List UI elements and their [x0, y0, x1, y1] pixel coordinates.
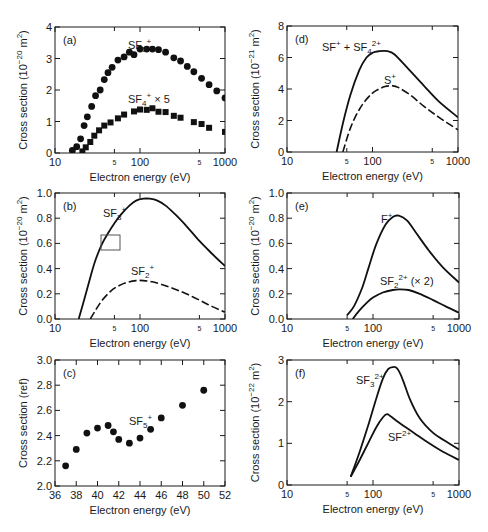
x-minor-tick-label: 5	[112, 325, 116, 332]
series-label-sf2: SF2+	[131, 263, 155, 280]
series-sf-2-	[351, 414, 459, 477]
data-point	[200, 387, 207, 394]
x-tick-label: 42	[113, 489, 125, 501]
x-tick-label: 1000	[446, 155, 470, 167]
series-sf4-5	[79, 105, 228, 154]
y-tick-label: 0.0	[269, 313, 284, 325]
y-tick-label: 1.0	[37, 187, 52, 199]
data-point	[170, 54, 177, 61]
data-point	[81, 122, 88, 129]
data-point	[162, 49, 169, 56]
x-minor-tick-label: 5	[197, 325, 201, 332]
y-axis-title: Cross section (10−20 m2)	[15, 30, 29, 150]
data-point	[184, 63, 191, 70]
x-minor-tick-label: 5	[345, 158, 349, 165]
x-tick-label: 1000	[447, 322, 471, 334]
data-point	[171, 113, 177, 119]
y-tick-label: 2.8	[37, 379, 52, 391]
data-line	[347, 215, 459, 315]
y-tick-label: 3.0	[37, 354, 52, 366]
panel-f: 10100100055Electron energy (eV)0123Cross…	[247, 354, 471, 515]
data-point	[199, 121, 205, 127]
data-point	[115, 115, 121, 121]
y-tick-label: 2.6	[37, 404, 52, 416]
panel-label: (c)	[63, 367, 76, 379]
y-axis-title: Cross section (10−22 m2)	[247, 363, 261, 483]
y-tick-label: 0	[278, 479, 284, 491]
plot-area	[337, 51, 458, 152]
y-tick-label: 2.4	[37, 430, 52, 442]
y-tick-label: 4	[278, 83, 284, 95]
y-tick-label: 3	[46, 53, 52, 65]
data-point	[94, 425, 101, 432]
y-tick-label: 6	[278, 52, 284, 64]
x-minor-tick-label: 5	[431, 491, 435, 498]
x-tick-label: 48	[176, 489, 188, 501]
data-point	[110, 428, 117, 435]
x-axis-title: Electron energy (eV)	[323, 337, 424, 349]
panel-b: 10100100055Electron energy (eV)0.00.20.4…	[15, 187, 237, 349]
data-point	[121, 112, 127, 118]
series-label-s: S+	[384, 72, 396, 86]
x-tick-label: 100	[364, 488, 382, 500]
data-point	[109, 64, 116, 71]
data-point	[115, 57, 122, 64]
y-axis-title: Cross section (10−21 m2)	[247, 29, 261, 149]
plot-area	[62, 387, 207, 469]
series-label-sf4: SF4+ × 5	[128, 91, 170, 108]
data-point	[115, 436, 122, 443]
data-point	[108, 119, 114, 125]
plot-area	[347, 215, 459, 319]
y-tick-label: 2.0	[37, 480, 52, 492]
data-point	[158, 415, 165, 422]
y-tick-label: 4	[46, 21, 52, 33]
data-point	[101, 76, 108, 83]
y-tick-label: 1.0	[269, 187, 284, 199]
data-line	[343, 86, 458, 152]
data-point	[105, 69, 112, 76]
x-axis-title: Electron energy (eV)	[90, 337, 191, 349]
series-sf2-	[90, 280, 225, 319]
x-tick-label: 52	[219, 489, 231, 501]
x-tick-label: 100	[364, 322, 382, 334]
y-tick-label: 0.8	[269, 212, 284, 224]
x-axis-title: Electron energy (eV)	[322, 170, 423, 182]
x-tick-label: 50	[198, 489, 210, 501]
series-label-f: F+	[381, 211, 393, 225]
y-tick-label: 0	[46, 147, 52, 159]
data-point	[88, 103, 95, 110]
data-point	[77, 135, 84, 142]
panel-c: 363840424446485052Electron energy (eV)2.…	[17, 354, 231, 516]
data-point	[73, 446, 80, 453]
figure: 10100100055Electron energy (eV)01234Cros…	[0, 0, 488, 532]
data-line	[337, 51, 458, 152]
data-point	[155, 109, 161, 115]
y-tick-label: 0.2	[269, 288, 284, 300]
panel-label: (b)	[63, 200, 76, 212]
plot-frame	[55, 193, 225, 319]
panel-label: (f)	[295, 367, 305, 379]
data-point	[73, 143, 80, 150]
y-tick-label: 2	[46, 84, 52, 96]
y-tick-label: 0.6	[269, 237, 284, 249]
y-axis-title: Cross section (10−20 m2)	[15, 196, 29, 316]
data-point	[198, 75, 205, 82]
data-point	[147, 426, 154, 433]
data-point	[213, 88, 220, 95]
x-minor-tick-label: 5	[431, 325, 435, 332]
data-point	[178, 115, 184, 121]
y-tick-label: 0.0	[37, 313, 52, 325]
series-label-sf3: SF3+	[103, 205, 127, 222]
y-tick-label: 2	[278, 115, 284, 127]
series-sf3-	[79, 198, 225, 319]
data-point	[190, 68, 197, 75]
y-axis: 0.00.20.40.60.81.0Cross section (10−20 m…	[247, 187, 459, 325]
data-point	[92, 92, 99, 99]
plot-area	[69, 46, 228, 155]
x-tick-label: 100	[131, 156, 149, 168]
y-tick-label: 1	[46, 116, 52, 128]
data-point	[121, 54, 128, 61]
x-tick-label: 38	[70, 489, 82, 501]
y-tick-label: 0.2	[37, 288, 52, 300]
data-point	[96, 127, 102, 133]
